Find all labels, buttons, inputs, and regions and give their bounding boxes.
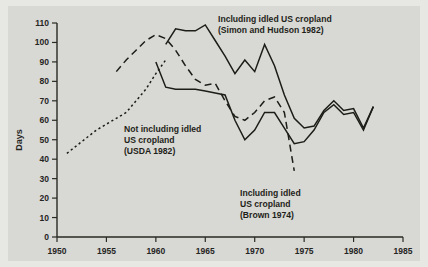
chart-screenshot: 0102030405060708090100110195019551960196… bbox=[0, 0, 428, 267]
annotation-line: (Simon and Hudson 1982) bbox=[218, 25, 324, 35]
annotation-line: (Brown 1974) bbox=[240, 210, 294, 220]
anno-simon-hudson: Including idled US cropland(Simon and Hu… bbox=[218, 14, 332, 35]
line-chart: 0102030405060708090100110195019551960196… bbox=[0, 0, 428, 267]
x-tick-label: 1950 bbox=[48, 246, 67, 256]
y-tick-label: 70 bbox=[40, 96, 50, 106]
y-tick-label: 30 bbox=[40, 174, 50, 184]
x-tick-label: 1965 bbox=[196, 246, 215, 256]
y-tick-label: 0 bbox=[44, 232, 49, 242]
annotation-line: US cropland bbox=[124, 135, 175, 145]
x-tick-label: 1970 bbox=[245, 246, 264, 256]
annotation-line: Not including idled bbox=[124, 124, 201, 134]
y-tick-label: 40 bbox=[40, 154, 50, 164]
y-tick-label: 20 bbox=[40, 193, 50, 203]
x-tick-label: 1955 bbox=[97, 246, 116, 256]
anno-usda: Not including idledUS cropland(USDA 1982… bbox=[124, 124, 201, 156]
y-tick-label: 110 bbox=[35, 18, 49, 28]
x-tick-label: 1975 bbox=[295, 246, 314, 256]
y-tick-label: 50 bbox=[40, 135, 50, 145]
x-tick-label: 1960 bbox=[146, 246, 165, 256]
y-axis-title: Days bbox=[14, 129, 24, 151]
y-tick-label: 10 bbox=[40, 213, 50, 223]
x-tick-label: 1985 bbox=[394, 246, 413, 256]
annotation-line: Including idled US cropland bbox=[218, 14, 332, 24]
annotation-line: (USDA 1982) bbox=[124, 146, 175, 156]
y-tick-label: 60 bbox=[40, 115, 50, 125]
x-tick-label: 1980 bbox=[344, 246, 363, 256]
y-tick-label: 100 bbox=[35, 37, 49, 47]
y-tick-label: 90 bbox=[40, 57, 50, 67]
annotation-line: US cropland bbox=[240, 199, 291, 209]
y-tick-label: 80 bbox=[40, 76, 50, 86]
anno-brown: Including idledUS cropland(Brown 1974) bbox=[240, 188, 301, 220]
annotation-line: Including idled bbox=[240, 188, 301, 198]
